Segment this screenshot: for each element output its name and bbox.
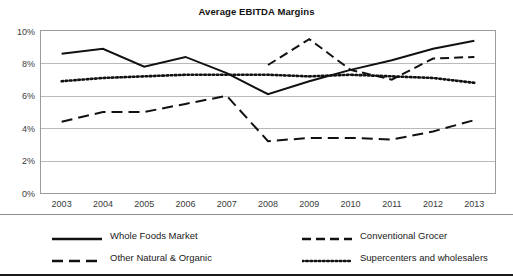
x-axis-tick: 2013 (464, 199, 484, 209)
x-axis-tick-labels: 2003200420052006200720082009201020112012… (52, 199, 485, 209)
legend-item[interactable]: Supercenters and wholesalers (302, 252, 513, 263)
legend-divider-top (0, 214, 513, 215)
x-axis-tick: 2009 (299, 199, 319, 209)
x-axis-tick: 2003 (52, 199, 72, 209)
series-line-1 (62, 41, 475, 94)
x-axis-tick: 2010 (341, 199, 361, 209)
x-axis-tick: 2008 (258, 199, 278, 209)
x-axis-tick: 2011 (382, 199, 401, 209)
chart-container: Average EBITDA Margins 0%2%4%6%8%10% 200… (0, 0, 513, 276)
y-axis-tick: 0% (22, 189, 35, 199)
y-axis-tick: 2% (22, 156, 35, 166)
legend-swatch-long-dashed-icon (52, 252, 102, 262)
legend-item[interactable]: Conventional Grocer (302, 230, 513, 241)
data-series-group (62, 39, 475, 141)
legend-swatch-dotted-icon (302, 252, 352, 262)
y-axis-tick: 8% (22, 59, 35, 69)
legend-item[interactable]: Whole Foods Market (52, 230, 302, 241)
chart-plot-area: 0%2%4%6%8%10% 20032004200520062007200820… (0, 0, 513, 214)
legend-swatch-dashed-icon (302, 230, 352, 240)
series-line-3 (62, 96, 475, 141)
legend-swatch-solid-icon (52, 230, 102, 240)
x-axis-tick: 2012 (423, 199, 443, 209)
y-axis-tick: 10% (17, 27, 35, 37)
plot-frame (41, 31, 496, 194)
x-axis-tick: 2007 (217, 199, 237, 209)
legend-item[interactable]: Other Natural & Organic (52, 252, 302, 263)
legend-label: Other Natural & Organic (110, 252, 212, 263)
legend-items: Whole Foods MarketConventional GrocerOth… (52, 224, 492, 268)
y-axis-tick: 4% (22, 124, 35, 134)
x-axis-tick: 2004 (93, 199, 113, 209)
legend-label: Conventional Grocer (360, 230, 447, 241)
y-axis-tick-labels: 0%2%4%6%8%10% (17, 27, 35, 199)
x-axis-tick: 2005 (134, 199, 154, 209)
series-line-2 (268, 39, 474, 80)
y-axis-tick: 6% (22, 91, 35, 101)
legend-label: Whole Foods Market (110, 230, 198, 241)
legend-label: Supercenters and wholesalers (360, 252, 488, 263)
chart-legend: Whole Foods MarketConventional GrocerOth… (0, 214, 513, 276)
x-axis-tick: 2006 (175, 199, 195, 209)
series-line-4 (62, 75, 475, 83)
